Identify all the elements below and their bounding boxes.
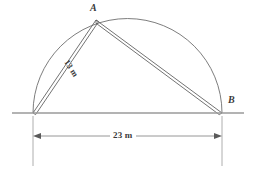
geometry-figure: A B 13 m 23 m: [0, 0, 256, 172]
strut-right: [96, 20, 222, 115]
vertex-label-a: A: [90, 3, 97, 13]
arrow-right-icon: [214, 133, 222, 139]
span-length-label: 23 m: [110, 131, 136, 140]
vertex-label-b: B: [228, 95, 235, 105]
semicircular-arc: [33, 19, 222, 113]
figure-canvas: [0, 0, 256, 172]
arrow-left-icon: [33, 133, 41, 139]
